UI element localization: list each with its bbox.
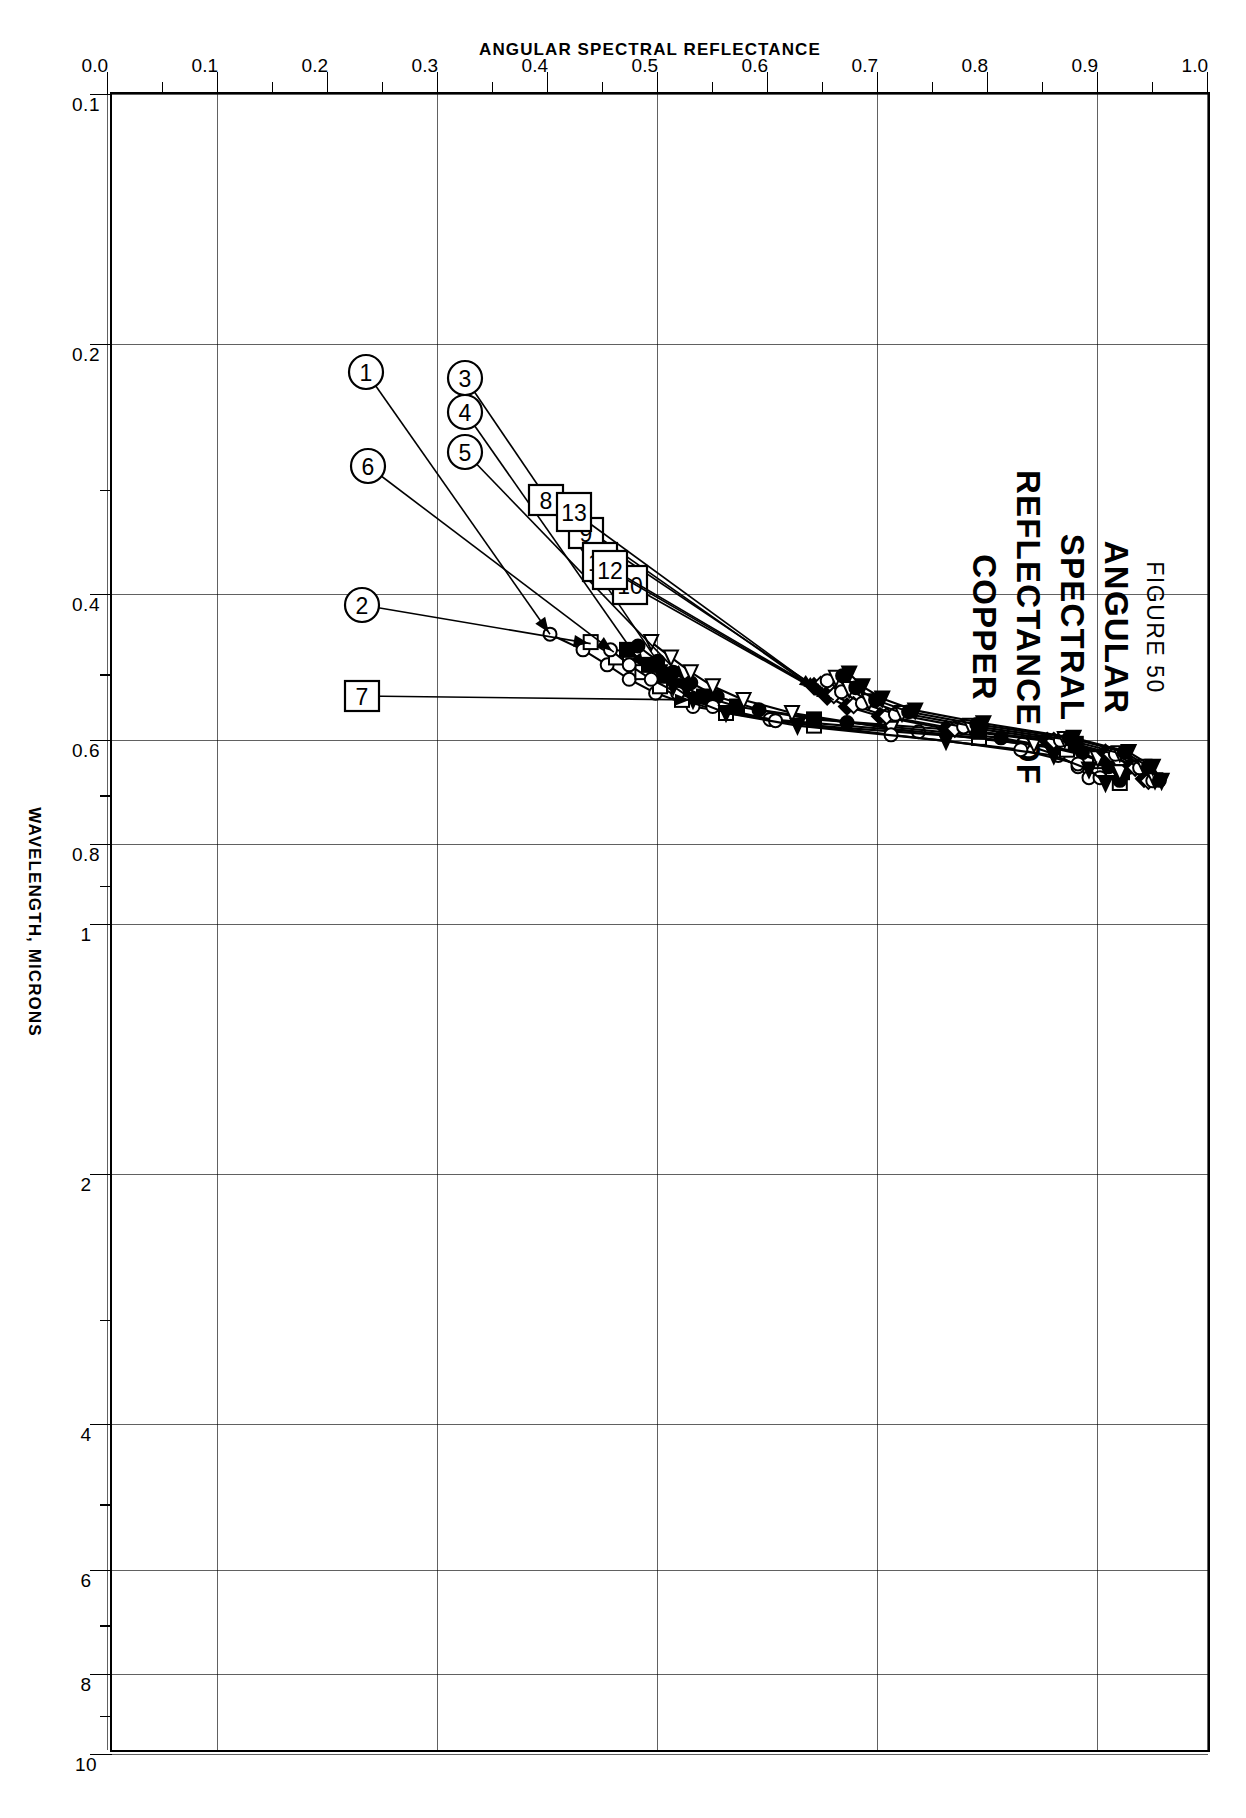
gridline-vertical	[112, 1424, 1208, 1425]
gridline-vertical	[112, 1174, 1208, 1175]
y-axis-tick-minor	[1152, 82, 1153, 94]
y-axis-tick-minor	[822, 82, 823, 94]
gridline-vertical	[112, 1674, 1208, 1675]
y-axis-tick-minor	[1042, 82, 1043, 94]
x-axis-tick	[100, 1504, 112, 1505]
figure-page: FIGURE 50 ANGULAR SPECTRAL REFLECTANCE O…	[0, 0, 1246, 1818]
y-axis-tick-minor	[712, 82, 713, 94]
plot-area: 0.10.20.40.60.812468100.00.10.20.30.40.5…	[110, 92, 1210, 1752]
x-axis-tick-label: 4	[80, 1424, 91, 1446]
x-axis-tick	[100, 1716, 112, 1717]
gridline-vertical	[112, 594, 1208, 595]
x-axis-title: WAVELENGTH, MICRONS	[24, 92, 44, 1752]
gridline-vertical	[112, 344, 1208, 345]
gridline-vertical	[112, 740, 1208, 741]
x-axis-tick	[90, 1674, 112, 1675]
x-axis-tick	[100, 1625, 112, 1626]
x-axis-tick	[100, 1320, 112, 1321]
x-axis-tick-label: 0.2	[72, 344, 100, 366]
x-axis-tick	[100, 490, 112, 491]
gridline-horizontal	[877, 94, 878, 1750]
y-axis-tick-minor	[382, 82, 383, 94]
y-axis-title: ANGULAR SPECTRAL REFLECTANCE	[100, 40, 1200, 60]
gridline-vertical	[112, 844, 1208, 845]
gridline-horizontal	[1207, 94, 1208, 1750]
x-axis-tick-label: 0.1	[72, 94, 100, 116]
x-axis-tick-label: 0.4	[72, 594, 100, 616]
x-axis-tick	[100, 795, 112, 796]
gridline-vertical	[112, 1570, 1208, 1571]
x-axis-tick	[90, 924, 112, 925]
x-axis-tick-label: 6	[80, 1570, 91, 1592]
x-axis-tick	[100, 886, 112, 887]
y-axis-tick-minor	[162, 82, 163, 94]
y-axis-tick-minor	[932, 82, 933, 94]
y-axis-tick-minor	[272, 82, 273, 94]
x-axis-tick-label: 1	[80, 924, 91, 946]
x-axis-tick	[90, 1424, 112, 1425]
y-axis-tick-minor	[492, 82, 493, 94]
y-axis-tick-minor	[602, 82, 603, 94]
gridline-horizontal	[217, 94, 218, 1750]
gridline-horizontal	[107, 94, 108, 1750]
gridline-vertical	[112, 924, 1208, 925]
gridline-horizontal	[657, 94, 658, 1750]
x-axis-tick-label: 10	[75, 1754, 97, 1776]
x-axis-tick-label: 0.8	[72, 844, 100, 866]
gridline-vertical	[112, 94, 1208, 95]
x-axis-tick-label: 0.6	[72, 740, 100, 762]
gridline-horizontal	[437, 94, 438, 1750]
x-axis-tick	[90, 1174, 112, 1175]
gridline-vertical	[112, 1754, 1208, 1755]
x-axis-tick	[90, 1570, 112, 1571]
x-axis-tick-label: 2	[80, 1174, 91, 1196]
gridline-horizontal	[1097, 94, 1098, 1750]
x-axis-tick	[100, 674, 112, 675]
x-axis-tick-label: 8	[80, 1674, 91, 1696]
